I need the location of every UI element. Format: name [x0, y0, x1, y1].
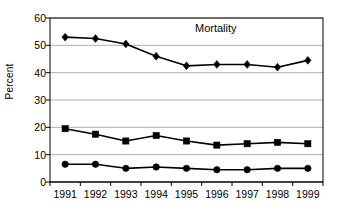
series-circle-marker	[123, 165, 129, 171]
series-circle-marker	[244, 167, 250, 173]
chart-container: Percent 0102030405060 Mortality 19911992…	[0, 0, 337, 216]
plot-area	[0, 0, 337, 216]
x-axis-tick-label: 1993	[111, 188, 141, 208]
series-circle-marker	[214, 167, 220, 173]
series-square-marker	[92, 131, 98, 137]
x-axis-tick-label: 1999	[293, 188, 323, 208]
series-square-marker	[62, 126, 68, 132]
x-axis-tick-label: 1992	[80, 188, 110, 208]
series-square-marker	[214, 142, 220, 148]
chart-title: Mortality	[195, 22, 237, 34]
series-square-marker	[305, 141, 311, 147]
x-axis-tick-labels: 199119921993199419951996199719981999	[50, 188, 323, 208]
series-circle-marker	[183, 165, 189, 171]
series-square-marker	[183, 138, 189, 144]
series-circle-marker	[274, 165, 280, 171]
x-axis-tick-label: 1995	[171, 188, 201, 208]
series-square-marker	[123, 138, 129, 144]
x-axis-tick-label: 1991	[50, 188, 80, 208]
series-square-marker	[244, 141, 250, 147]
series-square-marker	[153, 132, 159, 138]
x-axis-tick-label: 1998	[262, 188, 292, 208]
series-square-marker	[274, 139, 280, 145]
x-axis-tick-label: 1994	[141, 188, 171, 208]
x-axis-tick-label: 1997	[232, 188, 262, 208]
series-circle-marker	[62, 161, 68, 167]
x-axis-tick-label: 1996	[202, 188, 232, 208]
series-circle-marker	[92, 161, 98, 167]
series-circle-marker	[153, 164, 159, 170]
series-circle-marker	[305, 165, 311, 171]
